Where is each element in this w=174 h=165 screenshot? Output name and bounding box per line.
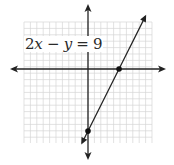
intercept-point xyxy=(85,128,91,134)
intercept-point xyxy=(116,66,122,72)
coordinate-plane xyxy=(0,0,174,165)
equation-label: 2x − y = 9 xyxy=(24,36,103,52)
